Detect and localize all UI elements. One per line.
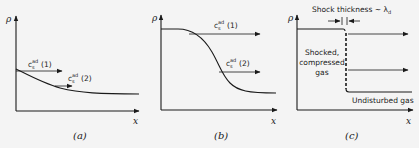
caption-a: (a) [73, 130, 87, 141]
density-curve [161, 29, 276, 93]
svg-text:s: s [218, 25, 221, 31]
svg-text:(1): (1) [227, 21, 238, 30]
y-axis-label: ρ [287, 13, 294, 23]
shocked-gas-label: Shocked, compressed gas [299, 48, 345, 77]
svg-text:Shocked,: Shocked, [305, 48, 339, 57]
x-axis-label: x [271, 116, 276, 126]
shocked-level [297, 29, 345, 31]
panel-c: ρ x Shock thickness ~ λd Shocked, compre… [287, 5, 414, 141]
svg-text:(2): (2) [239, 59, 250, 68]
shock-formation-diagram: ρ x c ad s (1) c ad s (2) (a) ρ x c ad s [0, 0, 419, 148]
caption-c: (c) [345, 130, 359, 141]
shock-thickness-label: Shock thickness ~ λd [312, 5, 391, 15]
svg-text:gas: gas [315, 68, 328, 77]
y-axis-label: ρ [151, 13, 158, 23]
undisturbed-gas-label: Undisturbed gas [352, 96, 414, 105]
arrow-label-1: c ad s (1) [28, 58, 52, 70]
svg-text:s: s [230, 63, 233, 69]
svg-text:(2): (2) [81, 74, 92, 83]
x-axis-label: x [406, 116, 411, 126]
arrow-label-2: c ad s (2) [226, 57, 250, 69]
x-axis-label: x [133, 116, 138, 126]
panel-a: ρ x c ad s (1) c ad s (2) (a) [5, 14, 139, 141]
arrow-label-1: c ad s (1) [214, 19, 238, 31]
svg-text:s: s [72, 78, 75, 84]
arrow-label-2: c ad s (2) [68, 72, 92, 84]
caption-b: (b) [214, 130, 228, 141]
svg-text:compressed: compressed [299, 58, 345, 67]
panel-b: ρ x c ad s (1) c ad s (2) (b) [151, 13, 277, 141]
svg-text:(1): (1) [41, 60, 52, 69]
undisturbed-level [346, 89, 412, 92]
svg-text:s: s [32, 64, 35, 70]
y-axis-label: ρ [5, 14, 12, 24]
